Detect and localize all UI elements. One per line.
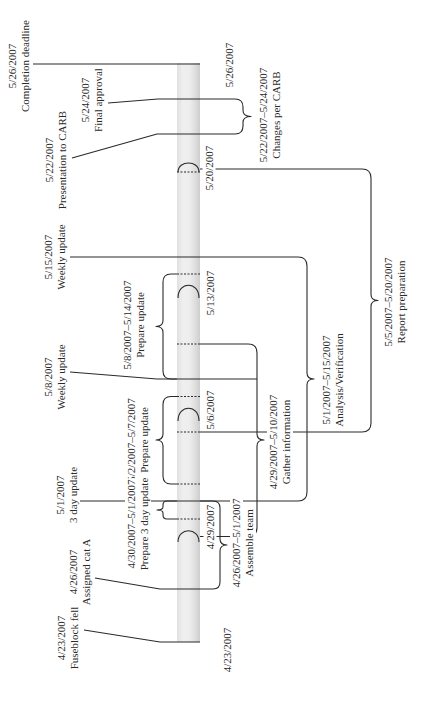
event-text: Fuseblock fell [68, 606, 81, 671]
event-date: 4/23/2007 [55, 615, 68, 662]
task-text: Assemble team [243, 508, 256, 578]
event-date: 5/24/2007 [79, 77, 92, 124]
task-text: Report preparation [395, 260, 408, 345]
task-text: Prepare update [134, 291, 147, 359]
arc-5-6 [178, 408, 199, 421]
week-arcs [178, 163, 199, 542]
event-presentation-carb: 5/22/2007 Presentation to CARB [43, 110, 69, 210]
tick-date: 5/26/2007 [223, 42, 236, 89]
task-assemble-team: 4/26/2007–5/1/2007 Assemble team [230, 497, 256, 588]
task-range: 5/5/2007–5/20/2007 [382, 256, 395, 347]
event-completion-deadline: 5/26/2007 Completion deadline [6, 19, 32, 113]
event-date: 5/1/2007 [54, 474, 67, 515]
brace-changes-per-carb [200, 99, 251, 134]
event-date: 5/26/2007 [6, 43, 19, 90]
tick-date: 5/20/2007 [203, 145, 216, 192]
event-text: Presentation to CARB [56, 110, 69, 210]
task-range: 5/2/2007–5/7/2007 [125, 397, 138, 483]
task-range: 5/22/2007–5/24/2007 [257, 67, 270, 164]
axis-tick-label: 5/20/2007 [203, 145, 216, 192]
event-text: Weekly update [55, 223, 68, 290]
leader-final-approval [108, 99, 200, 103]
axis-tick-label: 4/29/2007 [204, 504, 217, 551]
leader-fuseblock-fell [84, 630, 200, 642]
tick-date: 4/29/2007 [204, 504, 217, 551]
event-weekly-update-58: 5/8/2007 Weekly update [42, 343, 68, 410]
task-range: 5/8/2007–5/14/2007 [121, 279, 134, 370]
axis-tick-label: 5/6/2007 [204, 389, 217, 430]
task-range: 5/1/2007–5/15/2007 [320, 334, 333, 425]
event-assigned-cat-a: 4/26/2007 Assigned cat A [67, 538, 93, 607]
event-weekly-update-515: 5/15/2007 Weekly update [42, 223, 68, 290]
arc-4-29 [178, 531, 199, 542]
task-prepare-update-1: 5/8/2007–5/14/2007 Prepare update [121, 279, 147, 370]
brace-report-preparation [200, 169, 378, 432]
dotted-date-ticks [177, 172, 200, 519]
arc-5-20 [178, 163, 199, 172]
event-text: Weekly update [55, 343, 68, 410]
right-braces [200, 99, 378, 589]
task-report-preparation: 5/5/2007–5/20/2007 Report preparation [382, 256, 408, 347]
event-date: 5/8/2007 [42, 356, 55, 397]
axis-tick-label: 5/13/2007 [204, 270, 217, 317]
event-3-day-update: 5/1/2007 3 day update [54, 466, 80, 524]
axis-tick-label: 4/23/2007 [221, 627, 234, 674]
task-range: 4/29/2007–5/10/2007 [267, 394, 280, 491]
task-gather-information: 4/29/2007–5/10/2007 Gather information [267, 394, 293, 491]
brace-prepare-update-1 [156, 274, 177, 379]
tick-date: 4/23/2007 [221, 627, 234, 674]
task-range: 4/26/2007–5/1/2007 [230, 497, 243, 588]
event-date: 4/26/2007 [67, 549, 80, 596]
task-prepare-3-day-update: 4/30/2007–5/1/2007 Prepare 3 day update [125, 477, 151, 572]
event-fuseblock-fell: 4/23/2007 Fuseblock fell [55, 606, 81, 671]
brace-prepare-update-2 [156, 397, 177, 485]
task-changes-per-carb: 5/22/2007–5/24/2007 Changes per CARB [257, 67, 283, 164]
task-text: Prepare 3 day update [138, 477, 151, 572]
event-text: Completion deadline [19, 19, 32, 113]
tick-date: 5/13/2007 [204, 270, 217, 317]
event-date: 5/15/2007 [42, 234, 55, 281]
task-analysis-verification: 5/1/2007–5/15/2007 Analysis/Verification [320, 332, 346, 427]
task-text: Changes per CARB [270, 70, 283, 159]
event-date: 5/22/2007 [43, 137, 56, 184]
leader-assigned-cat-a [95, 578, 200, 589]
task-range: 4/30/2007–5/1/2007 [125, 478, 138, 569]
event-text: Final approval [92, 67, 105, 133]
event-text: Assigned cat A [80, 538, 93, 607]
leader-presentation-carb [72, 134, 200, 158]
brace-prepare-3-day-update [157, 501, 177, 519]
event-text: 3 day update [67, 466, 80, 524]
left-braces [156, 274, 177, 519]
event-final-approval: 5/24/2007 Final approval [79, 67, 105, 133]
task-text: Gather information [280, 399, 293, 486]
task-text: Analysis/Verification [333, 332, 346, 427]
task-text: Prepare update [138, 406, 151, 474]
arc-5-13 [178, 285, 199, 298]
axis-tick-label: 5/26/2007 [223, 42, 236, 89]
task-prepare-update-2: 5/2/2007–5/7/2007 Prepare update [125, 397, 151, 483]
tick-date: 5/6/2007 [204, 389, 217, 430]
